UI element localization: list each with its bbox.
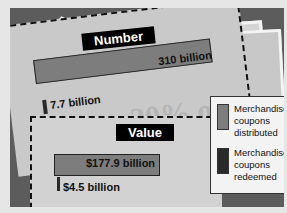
value-distributed-label: $177.9 billion (86, 157, 155, 169)
value-title: Value (116, 124, 174, 141)
legend-swatch-distributed (217, 104, 229, 130)
legend-item-redeemed: Merchandise coupons redeemed (217, 147, 284, 183)
bar-value-redeemed (57, 177, 60, 191)
legend-swatch-redeemed (217, 148, 229, 174)
chart-frame: 20% off Number 310 billion 7.7 billion V… (10, 8, 284, 207)
legend-label: Merchandise coupons redeemed (234, 147, 284, 183)
legend-item-distributed: Merchandise coupons distributed (217, 103, 284, 139)
legend: Merchandise coupons distributed Merchand… (210, 96, 284, 194)
legend-label: Merchandise coupons distributed (234, 103, 284, 139)
value-redeemed-label: $4.5 billion (63, 181, 120, 193)
